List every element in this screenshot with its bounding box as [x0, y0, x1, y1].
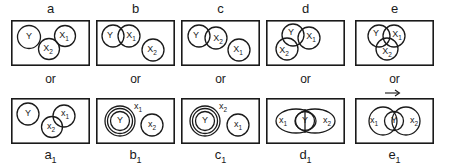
or-connector-d: or: [263, 72, 348, 86]
panel-label-b1-base: b: [129, 147, 136, 162]
panel-label-e1: e1: [352, 148, 437, 162]
panel-d: Y X1 X2: [266, 20, 345, 66]
panel-e1: x1 Y x2: [355, 98, 434, 144]
set-label-x2: X2: [147, 44, 157, 55]
panel-label-a1-base: a: [44, 147, 51, 162]
or-connector-b: or: [93, 72, 178, 86]
panel-c-drawing: Y X2 X1: [181, 20, 260, 66]
panel-a-drawing: Y X1 X2: [11, 20, 90, 66]
panel-e1-drawing: x1 Y x2: [355, 98, 434, 144]
set-label-x2: X2: [43, 43, 53, 54]
panel-a: Y X1 X2: [11, 20, 90, 66]
panel-label-a1: a1: [8, 148, 93, 162]
panel-label-d: d: [263, 2, 348, 16]
venn-diagram-figure: a Y X1 X2 or Y x1 x2: [0, 0, 451, 168]
panel-label-d1-sub: 1: [307, 155, 312, 165]
set-label-y: Y: [26, 31, 32, 41]
set-label-x2: X2: [382, 46, 392, 57]
set-label-x2: x2: [219, 101, 228, 112]
set-label-x2: X2: [279, 45, 289, 56]
panel-label-b1-sub: 1: [137, 155, 142, 165]
panel-label-c: c: [178, 2, 263, 16]
set-label-y: Y: [117, 115, 123, 125]
diagram-column-c: c Y X2 X1 or Y x2 x1: [178, 0, 263, 168]
panel-label-c1: c1: [178, 148, 263, 162]
set-label-x1: x1: [370, 115, 379, 126]
panel-label-e: e: [352, 2, 437, 16]
panel-c: Y X2 X1: [181, 20, 260, 66]
set-label-x1: X1: [306, 31, 316, 42]
panel-label-b: b: [93, 2, 178, 16]
panel-label-e1-base: e: [388, 147, 395, 162]
panel-label-d1-base: d: [299, 147, 306, 162]
set-label-x1: X1: [59, 30, 69, 41]
panel-label-d1: d1: [263, 148, 348, 162]
panel-label-b1: b1: [93, 148, 178, 162]
panel-label-a1-sub: 1: [52, 155, 57, 165]
panel-b1: Y x1 x2: [96, 98, 175, 144]
panel-c1: Y x2 x1: [181, 98, 260, 144]
set-label-y: Y: [302, 115, 308, 125]
set-label-y: Y: [25, 108, 31, 118]
set-label-x1: x1: [134, 101, 143, 112]
panel-d1-drawing: x1 Y x2: [266, 98, 345, 144]
panel-e-drawing: Y X1 X2: [355, 20, 434, 66]
set-label-x2: x2: [323, 115, 332, 126]
diagram-column-d: d Y X1 X2 or x1 Y x2: [263, 0, 348, 168]
set-label-y: Y: [202, 115, 208, 125]
set-label-x1: X1: [126, 30, 136, 41]
diagram-column-a: a Y X1 X2 or Y x1 x2: [8, 0, 93, 168]
panel-label-c1-sub: 1: [221, 155, 226, 165]
set-label-y: Y: [391, 115, 397, 125]
panel-c1-drawing: Y x2 x1: [181, 98, 260, 144]
set-label-y: Y: [373, 28, 379, 38]
set-label-x2: X2: [213, 33, 223, 44]
set-label-x1: X1: [233, 44, 243, 55]
set-label-x2: x2: [47, 121, 56, 132]
or-connector-e: or: [352, 72, 437, 86]
panel-d-drawing: Y X1 X2: [266, 20, 345, 66]
panel-e: Y X1 X2: [355, 20, 434, 66]
set-label-x2: x2: [148, 119, 157, 130]
set-label-x1: x1: [61, 108, 70, 119]
panel-label-e1-sub: 1: [396, 155, 401, 165]
diagram-column-e: e Y X1 X2 or x1 Y x: [352, 0, 437, 168]
set-label-y: Y: [107, 30, 113, 40]
panel-d1: x1 Y x2: [266, 98, 345, 144]
panel-a1: Y x1 x2: [11, 98, 90, 144]
or-connector-a: or: [8, 72, 93, 86]
or-connector-c: or: [178, 72, 263, 86]
set-label-x1: x1: [234, 119, 243, 130]
panel-b1-drawing: Y x1 x2: [96, 98, 175, 144]
set-label-x1: x1: [279, 115, 288, 126]
panel-b-drawing: Y X1 X2: [96, 20, 175, 66]
panel-a1-drawing: Y x1 x2: [11, 98, 90, 144]
set-label-y: Y: [193, 30, 199, 40]
panel-label-a: a: [8, 2, 93, 16]
set-label-x2: x2: [410, 115, 419, 126]
set-label-x1: X1: [392, 29, 402, 40]
diagram-column-b: b Y X1 X2 or Y x1 x2: [93, 0, 178, 168]
panel-b: Y X1 X2: [96, 20, 175, 66]
set-label-y: Y: [288, 27, 294, 37]
universe-rect: [356, 21, 433, 65]
